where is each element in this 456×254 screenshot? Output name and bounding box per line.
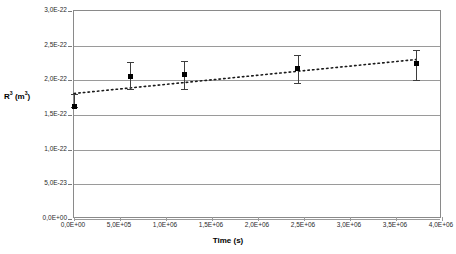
- x-axis-title: Time (s): [0, 236, 456, 245]
- chart-container: R3 (m3) Time (s) 3,0E-222,5E-222,0E-221,…: [0, 0, 456, 254]
- error-bar-cap: [294, 55, 301, 56]
- data-point-marker: [182, 72, 187, 77]
- error-bar-cap: [71, 94, 78, 95]
- y-axis-tick-label: 1,0E-22: [7, 145, 67, 152]
- plot-area: [73, 10, 441, 218]
- data-point-marker: [295, 66, 300, 71]
- gridline: [74, 219, 440, 220]
- y-axis-tick: [68, 80, 72, 81]
- data-point-marker: [72, 104, 77, 109]
- y-axis-tick-label: 5,0E-23: [7, 179, 67, 186]
- y-axis-tick: [68, 11, 72, 12]
- y-axis-tick-label: 1,5E-22: [7, 110, 67, 117]
- y-axis-title: R3 (m3): [4, 92, 30, 101]
- error-bar-cap: [413, 80, 420, 81]
- y-axis-tick: [68, 115, 72, 116]
- x-axis-tick: [442, 217, 443, 221]
- trendline: [74, 11, 442, 219]
- y-axis-tick-label: 0,0E+00: [7, 214, 67, 221]
- y-axis-tick-label: 2,5E-22: [7, 41, 67, 48]
- error-bar-cap: [181, 61, 188, 62]
- data-point-marker: [128, 74, 133, 79]
- error-bar-cap: [413, 50, 420, 51]
- y-axis-tick: [68, 219, 72, 220]
- y-axis-tick: [68, 46, 72, 47]
- y-axis-tick: [68, 150, 72, 151]
- error-bar-cap: [181, 89, 188, 90]
- error-bar-cap: [127, 89, 134, 90]
- y-axis-tick-label: 2,0E-22: [7, 75, 67, 82]
- x-axis-tick-label: 4,0E+06: [411, 221, 456, 228]
- error-bar-cap: [294, 83, 301, 84]
- y-axis-tick: [68, 184, 72, 185]
- data-point-marker: [414, 61, 419, 66]
- error-bar-cap: [127, 62, 134, 63]
- y-axis-tick-label: 3,0E-22: [7, 6, 67, 13]
